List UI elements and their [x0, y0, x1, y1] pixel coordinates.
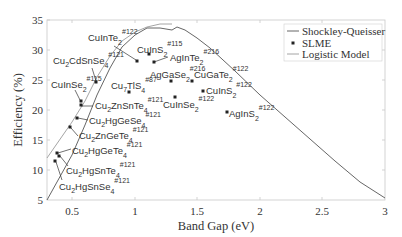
x-tick: 1 [132, 205, 138, 217]
point-cuins2-122 [202, 90, 205, 93]
y-tick: 5 [38, 194, 44, 206]
y-tick: 25 [32, 74, 44, 86]
point-cu2zngete4 [69, 126, 72, 129]
label-cuinse2-115: CuInSe2#115 [51, 75, 102, 93]
point-cuinte2 [136, 60, 139, 63]
y-tick: 20 [32, 104, 44, 116]
legend-sq-label: Shockley-Queisser [302, 25, 385, 37]
point-labels: CuInTe2#122 CuInS2#115 AgInTe2#216 Cu2Cd… [51, 28, 274, 195]
chart-svg: 35 30 25 20 15 10 5 0.5 1 1.5 2 2.5 3 Ba… [0, 0, 402, 237]
y-tick: 10 [32, 164, 44, 176]
x-tick: 0.5 [65, 205, 79, 217]
y-tick: 35 [32, 14, 44, 26]
label-aginte2: AgInTe2#216 [170, 48, 219, 66]
y-axis-title: Efficiency (%) [11, 73, 25, 147]
x-tick: 1.5 [190, 205, 204, 217]
point-cu2znsnte4 [80, 104, 83, 107]
point-cu2hgsnse4 [54, 160, 57, 163]
x-tick: 2 [257, 205, 263, 217]
label-cu2cdsnse4: Cu2CdSnSe4#121 [53, 51, 124, 69]
legend: Shockley-Queisser SLME Logistic Model [284, 24, 385, 61]
x-tick: 2.5 [315, 205, 329, 217]
label-agins2: AgInS2#122 [229, 104, 274, 122]
label-cuinse2-122: CuInSe2#122 [163, 95, 214, 113]
point-cu2hgsnte4 [58, 155, 61, 158]
legend-slme-swatch [292, 42, 295, 45]
point-cu2hggete4 [56, 152, 59, 155]
point-cu2hggese4 [76, 117, 79, 120]
label-cu2hggese4: Cu2HgGeSe4#121 [89, 111, 161, 129]
label-cu2hggete4: Cu2HgGeTe4#121 [72, 141, 143, 159]
label-cu2hgsnse4: Cu2HgSnSe4#121 [59, 177, 130, 195]
y-tick-labels: 35 30 25 20 15 10 5 [32, 14, 44, 206]
point-aginte2 [153, 61, 156, 64]
y-tick: 15 [32, 134, 44, 146]
label-cuinte2: CuInTe2#122 [88, 28, 138, 46]
x-axis-title: Band Gap (eV) [178, 219, 254, 233]
legend-logistic-label: Logistic Model [302, 48, 370, 60]
point-cuinse2-115 [80, 100, 83, 103]
x-tick-labels: 0.5 1 1.5 2 2.5 3 [65, 205, 388, 217]
y-tick: 30 [32, 44, 44, 56]
x-tick: 3 [382, 205, 388, 217]
